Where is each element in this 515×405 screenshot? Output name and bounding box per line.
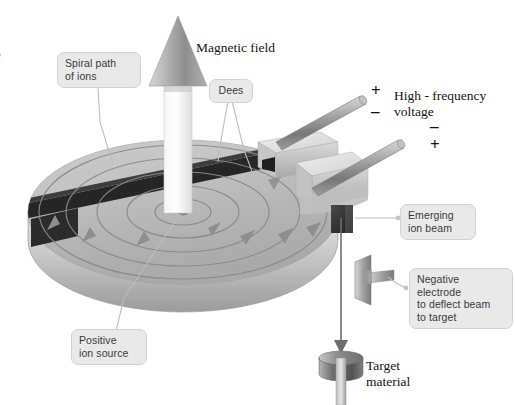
target-material — [319, 351, 363, 405]
lower-rod-plus-sign: + — [430, 137, 440, 152]
left-edge-text-fragment: e — [0, 47, 4, 63]
label-magnetic-field: Magnetic field — [196, 40, 275, 56]
emerging-ion-beam-window — [331, 205, 353, 233]
target-stem — [336, 358, 346, 405]
upper-rod-minus-sign: – — [371, 104, 380, 119]
callout-spiral-path: Spiral path of ions — [57, 52, 141, 88]
callout-emerging-ion-beam: Emerging ion beam — [400, 204, 476, 240]
label-target-material: Target material — [366, 358, 410, 389]
label-high-frequency-voltage: High - frequency voltage — [394, 88, 486, 119]
callout-dees: Dees — [209, 79, 253, 103]
lower-rod-minus-sign: – — [430, 119, 439, 134]
upper-rod-plus-sign: + — [371, 83, 381, 98]
cyclotron-diagram: Spiral path of ions Dees Emerging ion be… — [0, 0, 515, 405]
negative-electrode — [355, 255, 394, 305]
callout-negative-electrode: Negative electrode to deflect beam to ta… — [409, 268, 513, 329]
leader-negative-electrode — [388, 277, 406, 288]
callout-positive-ion-source: Positive ion source — [71, 329, 147, 365]
